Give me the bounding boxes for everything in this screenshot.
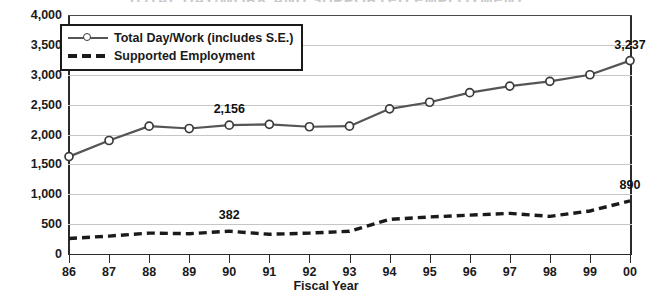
legend-item-label: Total Day/Work (includes S.E.) xyxy=(114,31,293,45)
data-point-marker xyxy=(466,89,474,97)
data-point-marker xyxy=(386,105,394,113)
series-line xyxy=(69,201,630,239)
data-point-marker xyxy=(225,121,233,129)
x-axis-tick xyxy=(510,255,511,263)
data-point-marker xyxy=(426,98,434,106)
x-axis-tick-label: 88 xyxy=(142,265,156,279)
x-axis-tick-label: 00 xyxy=(623,265,637,279)
chart-legend: Total Day/Work (includes S.E.) Supported… xyxy=(60,24,303,71)
series-line xyxy=(69,61,630,157)
x-axis-tick xyxy=(69,255,70,263)
legend-item-total-day-work: Total Day/Work (includes S.E.) xyxy=(68,29,293,47)
x-axis-title: Fiscal Year xyxy=(0,279,652,293)
data-point-marker xyxy=(185,125,193,133)
x-axis-tick xyxy=(149,255,150,263)
x-axis-tick-label: 89 xyxy=(182,265,196,279)
x-axis-tick-label: 98 xyxy=(543,265,557,279)
data-value-label: 382 xyxy=(219,208,240,222)
x-axis-tick-label: 90 xyxy=(222,265,236,279)
x-axis-tick xyxy=(189,255,190,263)
line-chart: TOTAL DAY/WORK AND SUPPORTED EMPLOYMENT … xyxy=(0,0,652,294)
data-point-marker xyxy=(346,122,354,130)
x-axis-tick-label: 94 xyxy=(383,265,397,279)
x-axis-tick-label: 87 xyxy=(102,265,116,279)
data-value-label: 2,156 xyxy=(214,102,245,116)
x-axis-tick-label: 95 xyxy=(423,265,437,279)
x-axis-tick-label: 99 xyxy=(583,265,597,279)
x-axis-tick xyxy=(390,255,391,263)
data-value-label: 890 xyxy=(620,178,641,192)
data-point-marker xyxy=(105,136,113,144)
data-point-marker xyxy=(65,153,73,161)
legend-item-supported-employment: Supported Employment xyxy=(68,47,293,65)
data-point-marker xyxy=(626,57,634,65)
x-axis-tick xyxy=(309,255,310,263)
data-point-marker xyxy=(506,82,514,90)
x-axis-tick xyxy=(550,255,551,263)
x-axis-tick-label: 92 xyxy=(302,265,316,279)
x-axis-tick-label: 91 xyxy=(262,265,276,279)
solid-line-marker-icon xyxy=(68,32,108,44)
x-axis-tick xyxy=(269,255,270,263)
x-axis-tick xyxy=(470,255,471,263)
data-point-marker xyxy=(145,122,153,130)
x-axis-tick xyxy=(630,255,631,263)
x-axis-tick-label: 93 xyxy=(343,265,357,279)
data-point-marker xyxy=(546,77,554,85)
x-axis-tick-label: 86 xyxy=(62,265,76,279)
x-axis-tick xyxy=(350,255,351,263)
legend-item-label: Supported Employment xyxy=(114,49,255,63)
data-value-label: 3,237 xyxy=(614,38,645,52)
x-axis-tick xyxy=(229,255,230,263)
x-axis-tick xyxy=(590,255,591,263)
x-axis-tick xyxy=(109,255,110,263)
dashed-line-icon xyxy=(68,50,108,62)
data-point-marker xyxy=(265,120,273,128)
data-point-marker xyxy=(305,123,313,131)
x-axis-tick xyxy=(430,255,431,263)
data-point-marker xyxy=(586,71,594,79)
x-axis-tick-label: 96 xyxy=(463,265,477,279)
x-axis-tick-label: 97 xyxy=(503,265,517,279)
